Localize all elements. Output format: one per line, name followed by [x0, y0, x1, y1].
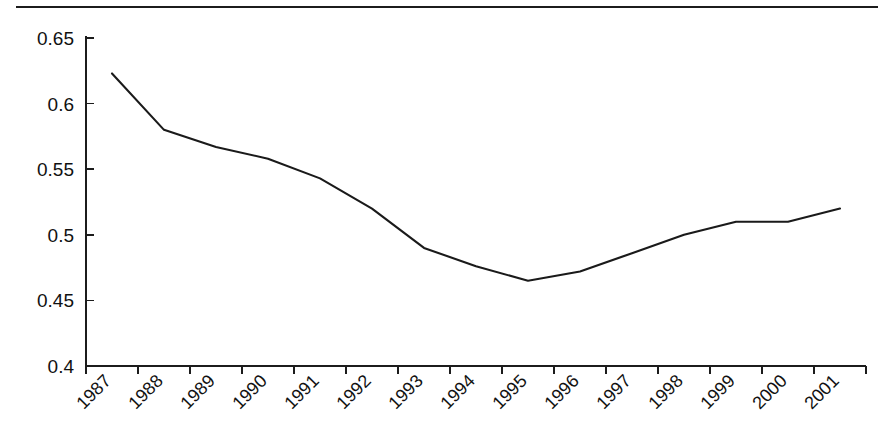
x-axis-tick-label: 1990	[228, 371, 270, 413]
x-axis-tick-label: 1998	[644, 371, 686, 413]
y-axis-tick-label: 0.6	[48, 94, 74, 115]
chart-canvas: 0.650.60.550.50.450.4 198719881989199019…	[0, 0, 889, 443]
y-axis-tick-label: 0.45	[37, 290, 74, 311]
x-axis-tick-label: 1996	[540, 371, 582, 413]
page-root: 0.650.60.550.50.450.4 198719881989199019…	[0, 0, 889, 443]
x-axis-tick-label: 1991	[280, 371, 322, 413]
line-chart-figure: 0.650.60.550.50.450.4 198719881989199019…	[0, 0, 889, 443]
x-axis-tick-label: 1993	[384, 371, 426, 413]
x-axis-tick-label: 1994	[436, 371, 478, 413]
x-axis-tick-label: 1987	[72, 371, 114, 413]
x-axis-tick-label: 2001	[800, 371, 842, 413]
y-axis-tick-labels: 0.650.60.550.50.450.4	[37, 28, 74, 377]
x-axis-tick-label: 2000	[748, 371, 790, 413]
x-axis-tick-label: 1997	[592, 371, 634, 413]
x-axis-tick-label: 1988	[124, 371, 166, 413]
y-axis-tick-label: 0.65	[37, 28, 74, 49]
y-axis-tick-marks	[86, 38, 94, 366]
y-axis-tick-label: 0.5	[48, 225, 74, 246]
x-axis-tick-label: 1989	[176, 371, 218, 413]
y-axis-tick-label: 0.4	[48, 356, 75, 377]
data-series-line	[112, 73, 840, 280]
x-axis-tick-label: 1992	[332, 371, 374, 413]
y-axis-tick-label: 0.55	[37, 159, 74, 180]
x-axis-tick-label: 1995	[488, 371, 530, 413]
x-axis-tick-labels: 1987198819891990199119921993199419951996…	[72, 371, 842, 413]
x-axis-tick-label: 1999	[696, 371, 738, 413]
